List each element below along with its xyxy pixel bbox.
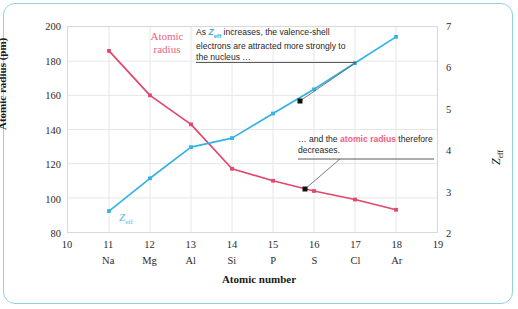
annotation-2-prefix: … and the xyxy=(298,134,340,144)
element-symbol-ar: Ar xyxy=(391,255,402,266)
element-symbol-na: Na xyxy=(102,255,114,266)
data-point xyxy=(312,189,316,193)
data-point xyxy=(394,208,398,212)
y-tick-right: 2 xyxy=(446,228,451,239)
x-axis-title: Atomic number xyxy=(0,273,518,285)
y-tick-left: 160 xyxy=(21,90,61,101)
annotation-1-zeff-symbol: Zeff xyxy=(208,27,221,37)
element-symbol-s: S xyxy=(311,255,317,266)
x-tick: 15 xyxy=(268,239,279,250)
series-label-atomic-radius-line2: radius xyxy=(154,43,181,55)
element-symbol-cl: Cl xyxy=(351,255,361,266)
x-tick: 19 xyxy=(433,239,444,250)
element-symbol-al: Al xyxy=(185,255,196,266)
element-symbol-mg: Mg xyxy=(142,255,157,266)
annotation-1-prefix: As xyxy=(196,27,208,37)
y-tick-left: 140 xyxy=(21,124,61,135)
x-tick: 12 xyxy=(144,239,155,250)
y-tick-left: 100 xyxy=(21,193,61,204)
annotation-zeff-increases: As Zeff increases, the valence-shell ele… xyxy=(196,27,356,63)
annotation-radius-decreases: … and the atomic radius therefore decrea… xyxy=(298,134,434,156)
data-point xyxy=(271,112,275,116)
data-point xyxy=(230,167,234,171)
annotation-2-highlight: atomic radius xyxy=(340,134,396,144)
y-axis-title-right-symbol: Z xyxy=(489,158,503,165)
x-tick: 13 xyxy=(185,239,196,250)
data-point xyxy=(107,209,111,213)
y-axis-title-right-subscript: eff xyxy=(496,150,505,158)
figure-root: Atomic radius (pm) Zeff Atomic number 80… xyxy=(0,0,518,309)
data-point xyxy=(353,198,357,202)
y-tick-right: 3 xyxy=(446,186,451,197)
series-label-zeff: Zeff xyxy=(119,211,133,226)
x-tick: 10 xyxy=(62,239,73,250)
y-tick-right: 4 xyxy=(446,145,451,156)
y-tick-left: 120 xyxy=(21,159,61,170)
y-tick-right: 7 xyxy=(446,21,451,32)
data-point xyxy=(107,49,111,53)
y-tick-left: 200 xyxy=(21,21,61,32)
element-symbol-p: P xyxy=(270,255,276,266)
data-point xyxy=(312,87,316,91)
element-symbol-si: Si xyxy=(227,255,236,266)
y-axis-title-left: Atomic radius (pm) xyxy=(0,38,8,130)
x-tick: 17 xyxy=(350,239,361,250)
data-point xyxy=(148,93,152,97)
y-tick-left: 180 xyxy=(21,55,61,66)
data-point xyxy=(189,145,193,149)
x-tick: 16 xyxy=(309,239,320,250)
y-tick-left: 80 xyxy=(21,228,61,239)
data-point xyxy=(189,122,193,126)
y-tick-right: 5 xyxy=(446,103,451,114)
y-tick-right: 6 xyxy=(446,62,451,73)
x-tick: 18 xyxy=(392,239,403,250)
y-axis-title-right: Zeff xyxy=(489,150,505,165)
data-point xyxy=(230,136,234,140)
data-point xyxy=(394,35,398,39)
series-label-atomic-radius: Atomic radius xyxy=(138,30,196,55)
data-point xyxy=(148,176,152,180)
series-atomic-radius xyxy=(107,49,398,212)
data-point xyxy=(271,179,275,183)
series-label-atomic-radius-line1: Atomic xyxy=(151,30,184,42)
series-label-zeff-subscript: eff xyxy=(125,218,133,226)
x-tick: 14 xyxy=(227,239,238,250)
x-tick: 11 xyxy=(103,239,113,250)
